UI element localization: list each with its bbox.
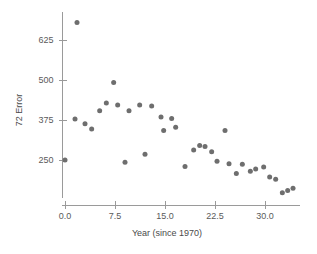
data-point [73,117,78,122]
data-point [291,186,296,191]
data-point [183,164,188,169]
data-point [173,125,178,130]
data-point [111,80,116,85]
data-point [75,20,80,25]
data-point [169,116,174,121]
data-point [240,162,245,167]
axes-group [59,12,301,209]
scatter-plot-figure: 2503755006250.07.515.022.530.0Year (sinc… [0,0,317,254]
x-tick-label: 15.0 [156,211,174,221]
data-point [267,174,272,179]
x-axis-title: Year (since 1970) [132,228,202,238]
data-point [127,108,132,113]
axis-labels-group: 2503755006250.07.515.022.530.0Year (sinc… [14,35,274,238]
data-point [115,102,120,107]
data-point [285,188,290,193]
data-point [97,108,102,113]
data-point [191,148,196,153]
data-point [104,101,109,106]
data-point [83,121,88,126]
x-tick-label: 7.5 [109,211,122,221]
data-point [209,149,214,154]
data-point [149,103,154,108]
data-point [89,126,94,131]
chart-canvas: 2503755006250.07.515.022.530.0Year (sinc… [0,0,317,254]
data-point [261,165,266,170]
data-point [123,160,128,165]
data-point [161,128,166,133]
x-tick-label: 0.0 [59,211,72,221]
data-points-group [63,20,296,195]
y-tick-label: 625 [38,35,53,45]
data-point [273,177,278,182]
y-tick-label: 500 [38,75,53,85]
y-tick-label: 250 [38,155,53,165]
data-point [215,159,220,164]
x-tick-label: 30.0 [256,211,274,221]
data-point [223,128,228,133]
data-point [248,169,253,174]
data-point [234,171,239,176]
data-point [137,102,142,107]
data-point [197,143,202,148]
x-tick-label: 22.5 [206,211,224,221]
data-point [227,161,232,166]
data-point [159,115,164,120]
data-point [253,166,258,171]
data-point [63,158,68,163]
data-point [280,190,285,195]
data-point [203,144,208,149]
data-point [143,152,148,157]
y-tick-label: 375 [38,115,53,125]
y-axis-title: 72 Error [14,94,24,127]
